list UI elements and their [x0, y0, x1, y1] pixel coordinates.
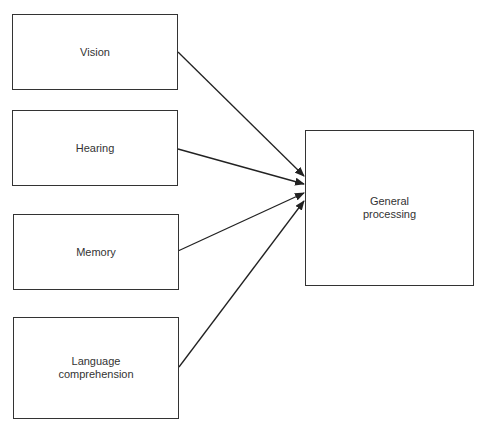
- box-memory: Memory: [13, 214, 179, 290]
- arrow-memory-to-processing: [178, 193, 304, 251]
- box-general-processing: General processing: [305, 130, 474, 286]
- box-language-comprehension-label: Language comprehension: [58, 355, 133, 381]
- box-language-comprehension: Language comprehension: [13, 317, 179, 419]
- box-hearing: Hearing: [12, 110, 178, 186]
- box-general-processing-label: General processing: [363, 195, 416, 221]
- arrow-language-to-processing: [179, 201, 304, 367]
- box-hearing-label: Hearing: [76, 142, 115, 155]
- box-vision: Vision: [12, 14, 178, 90]
- arrow-vision-to-processing: [178, 52, 304, 176]
- box-memory-label: Memory: [76, 246, 116, 259]
- arrow-hearing-to-processing: [178, 149, 304, 184]
- box-vision-label: Vision: [80, 46, 110, 59]
